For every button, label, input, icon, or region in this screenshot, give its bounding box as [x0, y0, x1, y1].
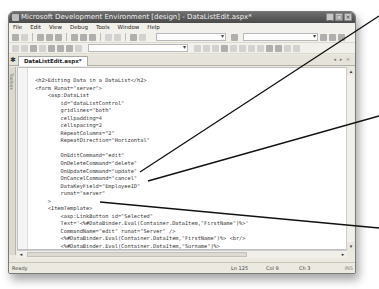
menu-window[interactable]: Window: [118, 23, 140, 32]
menu-help[interactable]: Help: [147, 23, 160, 32]
code-line: [35, 145, 249, 153]
horizontal-scrollbar[interactable]: ◂ ▸: [17, 250, 347, 258]
code-line: OnUpdateCommand="update": [35, 168, 249, 176]
scroll-left-arrow-icon[interactable]: ◂: [17, 251, 25, 258]
code-text[interactable]: <h2>Editing Data in a DataList</h2><form…: [35, 77, 249, 250]
back-icon[interactable]: [12, 45, 19, 52]
find-icon[interactable]: [231, 34, 238, 41]
document-tab-strip: ✱ DataListEdit.aspx* ◂ ▸ ×: [9, 55, 355, 66]
close-button[interactable]: ×: [344, 13, 352, 21]
favorites-icon[interactable]: [66, 45, 73, 52]
code-line: gridlines="both": [35, 107, 249, 115]
scroll-up-arrow-icon[interactable]: ▴: [347, 67, 355, 75]
code-line: RepeatColumns="2": [35, 130, 249, 138]
debug-config-icon[interactable]: [139, 34, 146, 41]
menu-bar: File Edit View Debug Tools Window Help: [9, 23, 355, 32]
indent-icon[interactable]: [194, 45, 201, 52]
paste-icon[interactable]: [89, 34, 96, 41]
ide-window: Microsoft Development Environment [desig…: [8, 11, 356, 274]
menu-view[interactable]: View: [49, 23, 62, 32]
url-dropdown[interactable]: [88, 44, 188, 52]
toolbar-separator: [125, 33, 126, 41]
outdent-icon[interactable]: [203, 45, 210, 52]
code-line: <asp:DataList: [35, 92, 249, 100]
menu-edit[interactable]: Edit: [30, 23, 41, 32]
toolbox-icon[interactable]: [338, 34, 345, 41]
code-line: runat="server": [35, 190, 249, 198]
properties-icon[interactable]: [329, 34, 336, 41]
code-line: cellspacing=2: [35, 122, 249, 130]
forward-icon[interactable]: [21, 45, 28, 52]
find-dropdown[interactable]: [243, 33, 318, 41]
menu-tools[interactable]: Tools: [96, 23, 110, 32]
save-icon[interactable]: [46, 34, 53, 41]
code-line: <h2>Editing Data in a DataList</h2>: [35, 77, 249, 85]
start-debug-icon[interactable]: [130, 34, 137, 41]
stop-icon[interactable]: [30, 45, 37, 52]
pin-icon[interactable]: ✱: [10, 56, 16, 64]
uncomment-icon[interactable]: [275, 45, 282, 52]
bookmark-icon[interactable]: [284, 45, 291, 52]
insert-mode-indicator: INS: [345, 263, 353, 274]
formatting-toolbar: [9, 43, 355, 54]
code-line: <asp:LinkButton id="Selected": [35, 213, 249, 221]
code-line: <ItemTemplate>: [35, 205, 249, 213]
link-icon[interactable]: [248, 45, 255, 52]
refresh-icon[interactable]: [39, 45, 46, 52]
open-file-icon[interactable]: [37, 34, 44, 41]
table-icon[interactable]: [230, 45, 237, 52]
line-number: Ln 125: [231, 263, 248, 274]
toolbox-panel-collapsed[interactable]: Toolbox: [9, 67, 16, 255]
vertical-scrollbar[interactable]: ▴ ▾: [346, 67, 354, 250]
copy-icon[interactable]: [80, 34, 87, 41]
tab-datalistedit[interactable]: DataListEdit.aspx*: [18, 56, 88, 66]
code-line: RepeatDirection="Horizontal": [35, 137, 249, 145]
scroll-right-arrow-icon[interactable]: ▸: [339, 251, 347, 258]
code-line: DataKeyField="EmployeeID": [35, 183, 249, 191]
window-title: Microsoft Development Environment [desig…: [21, 13, 252, 21]
next-bookmark-icon[interactable]: [293, 45, 300, 52]
solution-explorer-icon[interactable]: [320, 34, 327, 41]
search-web-icon[interactable]: [57, 45, 64, 52]
solution-config-dropdown[interactable]: [156, 33, 226, 41]
menu-file[interactable]: File: [13, 23, 22, 32]
layer-icon[interactable]: [239, 45, 246, 52]
standard-toolbar: [9, 32, 355, 43]
editor-gutter: [18, 68, 28, 249]
code-line: cellpadding=4: [35, 115, 249, 123]
code-line: CommandName="edit" runat="Server" />: [35, 228, 249, 236]
code-line: <%#DataBinder.Eval(Container.DataItem,"S…: [35, 243, 249, 250]
title-bar[interactable]: Microsoft Development Environment [desig…: [9, 12, 355, 23]
minimize-button[interactable]: _: [326, 13, 334, 21]
add-item-icon[interactable]: [21, 34, 28, 41]
code-line: OnDeleteCommand="delete": [35, 160, 249, 168]
redo-icon[interactable]: [114, 34, 121, 41]
comment-icon[interactable]: [266, 45, 273, 52]
toolbar-separator: [100, 33, 101, 41]
tab-navigation-controls[interactable]: ◂ ▸ ×: [334, 56, 351, 62]
toolbar-separator: [66, 33, 67, 41]
undo-icon[interactable]: [105, 34, 112, 41]
font-icon[interactable]: [75, 45, 82, 52]
save-all-icon[interactable]: [55, 34, 62, 41]
character-number: Ch 3: [299, 263, 310, 274]
horizontal-scroll-thumb[interactable]: [27, 252, 247, 257]
scroll-down-arrow-icon[interactable]: ▾: [347, 242, 355, 250]
window-controls: _ □ ×: [326, 13, 352, 21]
menu-debug[interactable]: Debug: [70, 23, 88, 32]
bold-icon[interactable]: [221, 45, 228, 52]
align-icon[interactable]: [212, 45, 219, 52]
image-icon[interactable]: [257, 45, 264, 52]
app-icon: [12, 14, 19, 21]
cut-icon[interactable]: [71, 34, 78, 41]
maximize-button[interactable]: □: [335, 13, 343, 21]
code-line: Text='<%#DataBinder.Eval(Container.DataI…: [35, 220, 249, 228]
code-editor[interactable]: <h2>Editing Data in a DataList</h2><form…: [17, 67, 347, 250]
code-line: OnEditCommand="edit": [35, 152, 249, 160]
new-project-icon[interactable]: [12, 34, 19, 41]
column-number: Col 9: [266, 263, 279, 274]
code-line: <form Runat="server">: [35, 85, 249, 93]
code-line: OnCancelCommand="cancel": [35, 175, 249, 183]
code-line: >: [35, 198, 249, 206]
home-icon[interactable]: [48, 45, 55, 52]
